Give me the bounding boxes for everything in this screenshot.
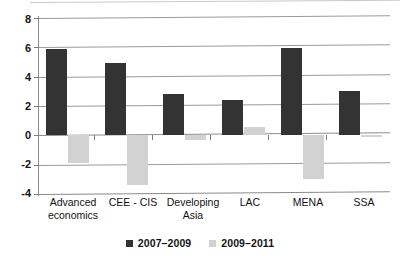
legend-item-2007-2009: 2007–2009 <box>126 238 191 249</box>
x-label-cee-cis: CEE - CIS <box>102 196 164 209</box>
y-tick-label-minus-4: -4 <box>21 188 31 199</box>
x-label-advanced-economics: Advanced economics <box>40 196 106 221</box>
plot-area <box>38 18 390 194</box>
x-axis-labels: Advanced economics CEE - CIS Developing … <box>38 196 390 236</box>
bar-mena-series1 <box>303 135 324 178</box>
legend-label-series0: 2007–2009 <box>138 238 191 249</box>
y-tick-label-0: 0 <box>25 130 31 141</box>
legend-swatch-icon-series1 <box>209 240 216 247</box>
legend-label-series1: 2009–2011 <box>221 238 274 249</box>
x-label-lac: LAC <box>220 196 280 209</box>
legend-swatch-icon-series0 <box>126 240 133 247</box>
chart-legend: 2007–2009 2009–2011 <box>0 238 400 249</box>
legend-item-2009-2011: 2009–2011 <box>209 238 274 249</box>
bar-ssa-series1 <box>361 135 382 136</box>
bar-developing-asia-series1 <box>185 135 206 140</box>
x-label-mena: MENA <box>278 196 338 209</box>
bar-developing-asia-series0 <box>163 94 184 136</box>
x-label-line1: Developing <box>167 196 220 208</box>
bar-lac-series1 <box>244 127 265 135</box>
x-label-line2: economics <box>48 209 98 221</box>
bar-ssa-series0 <box>339 91 360 136</box>
y-tick-minus-4 <box>34 194 39 195</box>
x-label-line1: Advanced <box>50 196 97 208</box>
bar-cee-cis-series0 <box>105 63 126 135</box>
bar-mena-series0 <box>281 48 302 135</box>
y-tick-label-4: 4 <box>25 72 31 83</box>
y-tick-label-2: 2 <box>25 101 31 112</box>
bars-layer <box>38 18 390 194</box>
x-label-line1: SSA <box>353 196 374 208</box>
bar-advanced-economics-series0 <box>46 49 67 136</box>
x-label-developing-asia: Developing Asia <box>160 196 226 221</box>
bar-cee-cis-series1 <box>127 135 148 185</box>
bar-chart-figure: 8 6 4 2 0 -2 -4 <box>0 0 400 266</box>
x-label-ssa: SSA <box>338 196 390 209</box>
bar-advanced-economics-series1 <box>68 135 89 163</box>
y-tick-label-8: 8 <box>25 14 31 25</box>
bar-lac-series0 <box>222 100 243 135</box>
x-label-line1: CEE - CIS <box>109 196 157 208</box>
y-axis-labels: 8 6 4 2 0 -2 -4 <box>0 18 31 194</box>
x-label-line1: LAC <box>240 196 260 208</box>
y-tick-label-6: 6 <box>25 43 31 54</box>
y-tick-label-minus-2: -2 <box>21 159 31 170</box>
x-label-line2: Asia <box>183 209 203 221</box>
x-label-line1: MENA <box>293 196 323 208</box>
scan-page-edge <box>30 0 400 3</box>
